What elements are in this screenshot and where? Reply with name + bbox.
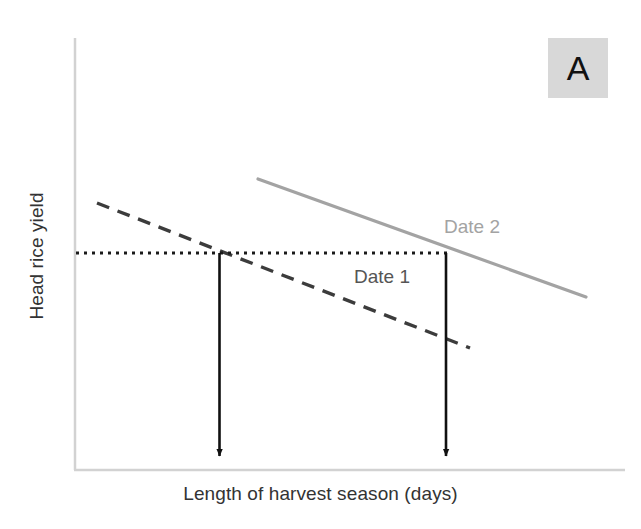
series-line-date-1: [97, 203, 470, 348]
panel-label-badge: A: [548, 38, 608, 98]
chart-canvas: [0, 0, 641, 529]
panel-label-text: A: [567, 49, 590, 88]
figure-panel-a: A Date 1 Date 2 Length of harvest season…: [0, 0, 641, 529]
series-line-date-2: [258, 179, 586, 297]
series-label-date-1: Date 1: [354, 266, 410, 288]
y-axis-label: Head rice yield: [26, 156, 48, 356]
x-axis-label: Length of harvest season (days): [0, 483, 641, 505]
series-label-date-2: Date 2: [444, 216, 500, 238]
